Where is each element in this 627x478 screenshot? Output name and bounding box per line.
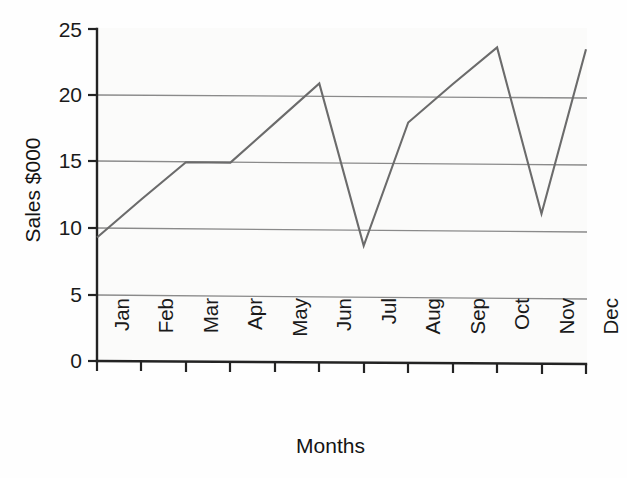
sales-data-line (97, 47, 586, 245)
x-tick-label-apr: Apr (243, 298, 267, 372)
x-tick-label-sep: Sep (466, 298, 490, 372)
x-tick-label-mar: Mar (199, 298, 223, 372)
x-tick-label-aug: Aug (421, 298, 445, 372)
x-tick-label-nov: Nov (555, 298, 579, 372)
x-tick-label-may: May (288, 298, 312, 372)
x-axis-title-text: Months (262, 434, 365, 458)
x-tick-label-feb: Feb (154, 298, 178, 372)
line-chart: 25 20 15 10 5 0 Sales $000 (0, 0, 627, 478)
x-tick-label-oct: Oct (510, 298, 534, 372)
gridlines (97, 95, 587, 299)
x-axis-title: Months (0, 434, 627, 458)
x-tick-label-dec: Dec (599, 298, 623, 372)
y-axis-ticks (88, 29, 97, 361)
plot-area (0, 0, 627, 478)
gridline-10 (97, 228, 587, 232)
x-tick-label-jul: Jul (377, 298, 401, 372)
gridline-20 (97, 95, 587, 98)
x-tick-label-jun: Jun (332, 298, 356, 372)
x-tick-label-jan: Jan (110, 298, 134, 372)
